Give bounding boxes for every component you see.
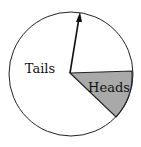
heads-label: Heads — [88, 80, 130, 95]
spinner-diagram: Tails Heads — [0, 0, 141, 147]
tails-label: Tails — [25, 61, 55, 76]
